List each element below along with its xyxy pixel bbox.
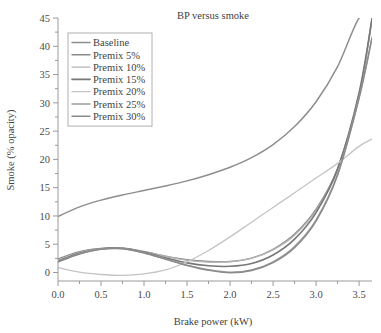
y-tick-label: 30 [40, 98, 51, 109]
x-tick-label: 2.0 [223, 289, 236, 300]
legend-label: Premix 30% [93, 111, 145, 122]
x-tick-label: 3.5 [353, 289, 366, 300]
x-tick-label: 1.5 [180, 289, 193, 300]
x-tick-label: 0.0 [51, 289, 64, 300]
y-tick-label: 45 [40, 13, 51, 24]
y-tick-label: 10 [40, 211, 51, 222]
legend-label: Premix 20% [93, 86, 145, 97]
chart-legend: BaselinePremix 5%Premix 10%Premix 15%Pre… [68, 33, 152, 126]
y-axis-title: Smoke (% opacity) [5, 109, 17, 191]
bp-versus-smoke-chart: BP versus smoke 0.00.51.01.52.02.53.03.5… [0, 0, 381, 333]
y-tick-label: 20 [40, 154, 51, 165]
x-tick-label: 1.0 [137, 289, 150, 300]
x-tick-label: 0.5 [94, 289, 107, 300]
y-tick-label: 35 [40, 69, 51, 80]
x-tick-label: 3.0 [310, 289, 323, 300]
legend-label: Premix 10% [93, 62, 145, 73]
chart-title: BP versus smoke [177, 10, 249, 21]
y-tick-label: 5 [45, 239, 50, 250]
legend-label: Premix 25% [93, 99, 145, 110]
x-axis-title: Brake power (kW) [174, 316, 253, 328]
chart-container: BP versus smoke 0.00.51.01.52.02.53.03.5… [0, 0, 381, 333]
series-line-premix-20 [58, 139, 372, 275]
y-tick-label: 25 [40, 126, 51, 137]
y-tick-label: 0 [45, 267, 50, 278]
legend-label: Baseline [93, 37, 129, 48]
y-tick-label: 40 [40, 41, 51, 52]
legend-label: Premix 5% [93, 50, 140, 61]
y-tick-label: 15 [40, 182, 51, 193]
legend-label: Premix 15% [93, 74, 145, 85]
x-tick-label: 2.5 [267, 289, 280, 300]
